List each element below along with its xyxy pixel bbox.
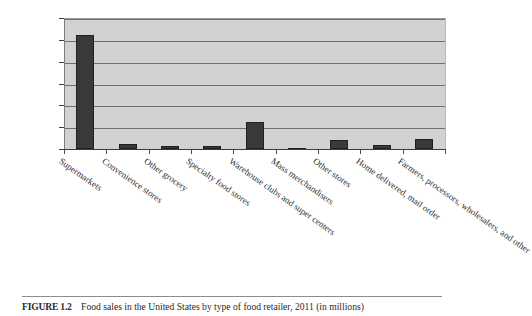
figure-caption: FIGURE 1.2 Food sales in the United Stat…	[22, 301, 452, 312]
gridline	[65, 85, 446, 86]
x-axis-tick-mark	[403, 150, 404, 154]
x-axis-tick-mark	[445, 150, 446, 154]
chart-frame-right-edge	[445, 18, 446, 150]
bar	[246, 122, 264, 149]
bar	[76, 35, 94, 149]
x-axis-tick-mark	[360, 150, 361, 154]
x-axis-tick-mark	[149, 150, 150, 154]
x-axis-tick-mark	[106, 150, 107, 154]
y-axis-tick-mark	[59, 62, 64, 63]
gridline	[65, 19, 446, 20]
x-axis-tick-mark	[276, 150, 277, 154]
x-axis-tick-mark	[191, 150, 192, 154]
y-axis-tick-mark	[59, 84, 64, 85]
x-axis-category-label: Other stores	[311, 156, 353, 190]
y-axis-tick-mark	[59, 105, 64, 106]
bar	[415, 139, 433, 149]
x-axis-tick-mark	[318, 150, 319, 154]
x-axis-baseline	[64, 149, 446, 150]
gridline	[65, 63, 446, 64]
gridline	[65, 41, 446, 42]
caption-divider	[22, 296, 442, 297]
gridline	[65, 106, 446, 107]
y-axis-tick-mark	[59, 127, 64, 128]
y-axis-tick-mark	[59, 40, 64, 41]
x-axis-category-label: Supermarkets	[57, 156, 104, 193]
figure-caption-text: Food sales in the United States by type …	[81, 301, 364, 312]
figure-caption-label: FIGURE 1.2	[22, 301, 72, 312]
x-axis-tick-mark	[233, 150, 234, 154]
x-axis-tick-mark	[64, 150, 65, 154]
y-axis-tick-mark	[59, 18, 64, 19]
bar	[330, 140, 348, 149]
